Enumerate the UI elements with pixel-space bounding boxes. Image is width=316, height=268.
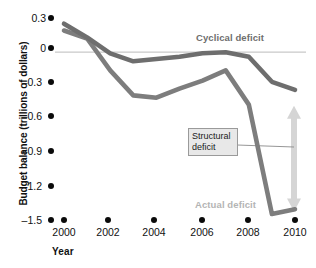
callout-leader-line [237,145,294,147]
structural-deficit-callout-line2: deficit [192,142,234,153]
structural-deficit-callout-line1: Structural [192,131,234,142]
structural-deficit-callout: Structural deficit [188,128,238,156]
plot-area [0,0,316,268]
cyclical-deficit-label: Cyclical deficit [196,32,264,43]
actual-deficit-label: Actual deficit [195,199,256,210]
structural-deficit-arrow [287,106,301,212]
budget-balance-chart: Budget balance (trillions of dollars) 0.… [0,0,316,268]
